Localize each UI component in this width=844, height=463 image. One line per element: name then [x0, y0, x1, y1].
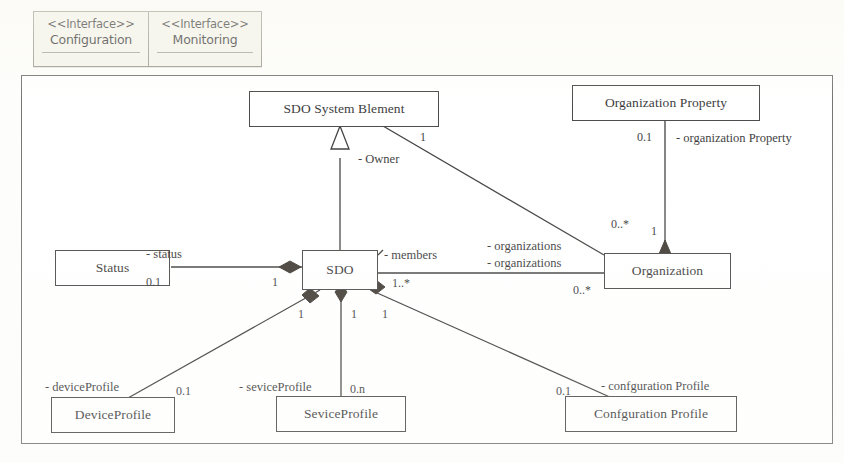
multiplicity-status-right: 1: [272, 276, 278, 289]
multiplicity-members: 1..*: [392, 277, 410, 290]
class-name-organization-property: Organization Property: [605, 95, 727, 111]
class-name-sdo-system-element: SDO System Blement: [283, 101, 404, 117]
multiplicity-organization-property: 0.1: [637, 131, 652, 144]
role-label-device-profile: - deviceProfile: [45, 380, 119, 394]
class-box-organization[interactable]: Organization: [604, 253, 731, 289]
multiplicity-confguration-profile: 0.1: [556, 385, 571, 398]
multiplicity-sevice-profile: 0.n: [350, 383, 365, 396]
interface-compartment-configuration: [42, 53, 140, 66]
interface-stereotype-monitoring: <<Interface>>: [157, 17, 253, 32]
multiplicity-organization-upper: 0..*: [611, 218, 629, 231]
class-box-confguration-profile[interactable]: Confguration Profile: [565, 396, 737, 432]
interface-name-configuration: Configuration: [42, 32, 140, 48]
uml-class-diagram-page: <<Interface>> Configuration <<Interface>…: [0, 0, 844, 463]
multiplicity-deviceprofile-sdo: 1: [298, 308, 304, 321]
multiplicity-status-left: 0.1: [146, 276, 161, 289]
role-label-owner: - Owner: [358, 152, 399, 166]
class-name-confguration-profile: Confguration Profile: [594, 406, 708, 422]
multiplicity-confgurationprofile-sdo: 1: [382, 308, 388, 321]
class-box-device-profile[interactable]: DeviceProfile: [51, 397, 175, 433]
interface-stereotype-strip: <<Interface>> Configuration <<Interface>…: [33, 11, 262, 67]
interface-stereotype-configuration: <<Interface>>: [42, 17, 140, 32]
interface-name-monitoring: Monitoring: [157, 32, 253, 48]
multiplicity-device-profile: 0.1: [176, 385, 191, 398]
multiplicity-organization-lower: 0..*: [573, 284, 591, 297]
class-box-sdo-system-element[interactable]: SDO System Blement: [249, 91, 439, 127]
interface-compartment-monitoring: [157, 53, 253, 66]
class-name-sdo: SDO: [326, 262, 353, 278]
role-label-members: - members: [384, 248, 437, 262]
class-name-sevice-profile: SeviceProfile: [304, 406, 378, 422]
multiplicity-seviceprofile-sdo: 1: [351, 308, 357, 321]
interface-box-configuration[interactable]: <<Interface>> Configuration: [34, 12, 148, 66]
class-box-organization-property[interactable]: Organization Property: [572, 85, 760, 121]
class-name-device-profile: DeviceProfile: [75, 407, 151, 423]
multiplicity-owner-one: 1: [420, 131, 426, 144]
class-name-organization: Organization: [632, 263, 703, 279]
role-label-organizations-upper: - organizations: [487, 239, 561, 253]
class-name-status: Status: [96, 260, 130, 276]
interface-box-monitoring[interactable]: <<Interface>> Monitoring: [148, 12, 261, 66]
role-label-organization-property: - organization Property: [676, 131, 792, 145]
role-label-confguration-profile: - confguration Profile: [601, 379, 709, 393]
class-box-sdo[interactable]: SDO: [302, 250, 378, 290]
multiplicity-organization-diamond: 1: [651, 225, 657, 238]
role-label-status: - status: [146, 247, 182, 261]
role-label-sevice-profile: - seviceProfile: [239, 380, 312, 394]
role-label-organizations-lower: - organizations: [487, 256, 561, 270]
class-box-sevice-profile[interactable]: SeviceProfile: [276, 396, 406, 432]
